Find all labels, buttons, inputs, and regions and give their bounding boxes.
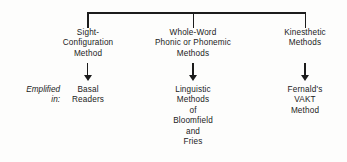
side-label-line: in: bbox=[6, 95, 60, 105]
node-line: Linguistic bbox=[153, 85, 233, 95]
node-line: of bbox=[153, 106, 233, 116]
node-line: Basal bbox=[48, 85, 128, 95]
node-fernalds-vakt-method: Fernald's VAKT Method bbox=[265, 85, 345, 116]
bracket-drop-middle bbox=[193, 12, 195, 28]
node-line: Fries bbox=[153, 137, 233, 147]
bracket-horizontal-rule bbox=[87, 12, 306, 14]
arrow-head bbox=[301, 75, 309, 81]
node-line: VAKT bbox=[265, 95, 345, 105]
node-line: Kinesthetic bbox=[262, 28, 347, 38]
node-line: Whole-Word bbox=[135, 28, 251, 38]
node-linguistic-methods-bloomfield-fries: Linguistic Methods of Bloomfield and Fri… bbox=[153, 85, 233, 147]
node-line: Methods bbox=[135, 49, 251, 59]
node-line: Methods bbox=[262, 38, 347, 48]
methods-classification-diagram: Sight- Configuration Method Basal Reader… bbox=[0, 0, 347, 162]
node-line: Method bbox=[265, 106, 345, 116]
arrow-down-whole-word-phonic bbox=[189, 63, 198, 81]
node-basal-readers: Basal Readers bbox=[48, 85, 128, 106]
node-line: Sight- bbox=[38, 28, 138, 38]
node-line: Readers bbox=[48, 95, 128, 105]
bracket-drop-right bbox=[305, 12, 307, 28]
arrow-down-sight-configuration bbox=[84, 63, 93, 81]
exemplified-in-label: Emplified in: bbox=[6, 85, 60, 106]
node-line: Phonic or Phonemic bbox=[135, 38, 251, 48]
arrow-head bbox=[84, 75, 92, 81]
node-whole-word-phonic-methods: Whole-Word Phonic or Phonemic Methods bbox=[135, 28, 251, 59]
node-line: Configuration bbox=[38, 38, 138, 48]
arrow-head bbox=[189, 75, 197, 81]
node-line: Method bbox=[38, 49, 138, 59]
arrow-down-kinesthetic bbox=[301, 63, 310, 81]
node-line: Bloomfield bbox=[153, 116, 233, 126]
bracket-drop-left bbox=[87, 12, 89, 28]
node-line: Methods bbox=[153, 95, 233, 105]
node-sight-configuration-method: Sight- Configuration Method bbox=[38, 28, 138, 59]
side-label-line: Emplified bbox=[6, 85, 60, 95]
node-kinesthetic-methods: Kinesthetic Methods bbox=[262, 28, 347, 49]
node-line: and bbox=[153, 127, 233, 137]
node-line: Fernald's bbox=[265, 85, 345, 95]
